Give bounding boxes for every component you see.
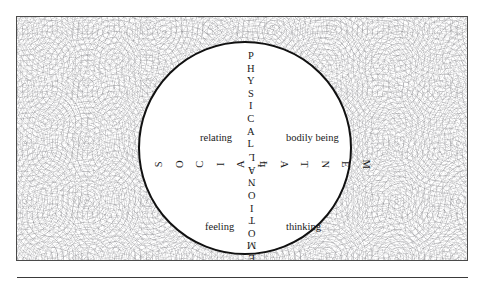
physical-axis-label: P H Y S I C A L	[247, 50, 255, 151]
mental-axis-label: M E N T A L	[252, 159, 375, 170]
axis-letter: L	[257, 154, 268, 175]
quadrant-label-relating: relating	[200, 132, 232, 143]
quadrant-label-bodily-being: bodily being	[286, 132, 339, 143]
quadrant-label-thinking: thinking	[286, 221, 321, 232]
axis-letter: I	[249, 100, 253, 113]
axis-letter: A	[278, 154, 289, 175]
horizontal-rule	[17, 277, 468, 278]
axis-letter: I	[250, 201, 254, 214]
axis-letter: O	[248, 189, 256, 202]
axis-letter: S	[248, 88, 254, 101]
axis-letter: O	[175, 154, 186, 175]
axis-letter: O	[248, 227, 256, 240]
axis-letter: N	[319, 154, 330, 175]
axis-letter: T	[248, 214, 254, 227]
axis-letter: C	[247, 113, 254, 126]
axis-letter: M	[360, 154, 371, 175]
quadrant-label-feeling: feeling	[205, 221, 234, 232]
axis-letter: E	[339, 154, 350, 175]
figure-panel: P H Y S I C A L E M O T I O N A L S O C …	[16, 16, 468, 261]
axis-letter: C	[195, 154, 206, 175]
axis-letter: N	[248, 176, 256, 189]
axis-letter: H	[247, 63, 255, 76]
axis-letter: E	[248, 252, 254, 261]
axis-letter: P	[248, 50, 254, 63]
axis-letter: I	[216, 154, 227, 175]
axis-letter: A	[236, 154, 247, 175]
axis-letter: A	[247, 126, 255, 139]
axis-letter: Y	[247, 75, 255, 88]
axis-letter: M	[247, 239, 256, 252]
axis-letter: S	[154, 154, 165, 175]
axis-letter: L	[248, 138, 254, 151]
quadrant-circle: P H Y S I C A L E M O T I O N A L S O C …	[138, 41, 352, 255]
axis-letter: T	[298, 154, 309, 175]
